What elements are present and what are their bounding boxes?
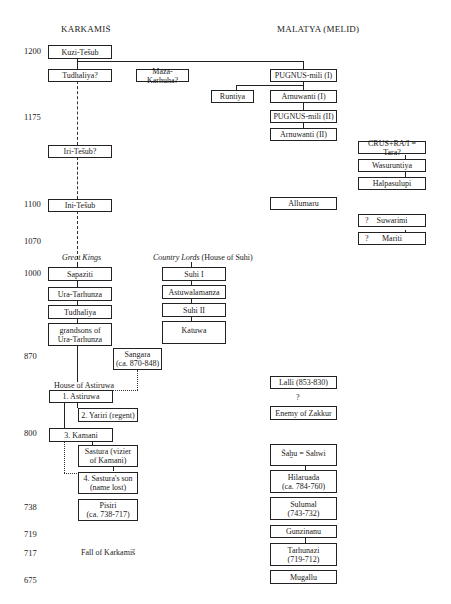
- ruler-suwarimi: ?Suwarimi: [358, 214, 426, 227]
- ruler-hilaruada: Hilaruada (ca. 784-760): [270, 470, 337, 493]
- ruler-allumaru: Allumaru: [270, 197, 337, 210]
- year-719: 719: [24, 529, 37, 539]
- ruler-suhi-1: Suhi I: [162, 267, 226, 281]
- ruler-pisiri: Pisiri (ca. 738-717): [78, 499, 138, 521]
- ruler-tudhaliya-q: Tudhaliya?: [48, 69, 112, 82]
- ruler-sastura-son: 4. Sastura's son (name lost): [78, 472, 138, 494]
- label-fall-of-karkamis: Fall of Karkamiš: [81, 548, 135, 557]
- dashed-connector: [77, 81, 78, 145]
- header-malatya: MALATYA (MELID): [277, 24, 359, 34]
- header-karkamis: KARKAMIŠ: [61, 24, 111, 34]
- ruler-wasuruntiya: Wasuruntiya: [358, 159, 426, 172]
- ruler-maza-karhuha: Maza-Karhuha?: [136, 69, 189, 82]
- unknown-succession-mark: ?: [296, 393, 300, 402]
- label-country-lords-suffix: (House of Suhi): [200, 253, 253, 262]
- year-738: 738: [24, 502, 37, 512]
- ruler-halpasulupi: Halpasulupi: [358, 177, 426, 190]
- ruler-sastura: Sastura (vizier of Kamani): [78, 445, 138, 467]
- ruler-tudhaliya: Tudhaliya: [48, 305, 112, 319]
- ruler-astiruwa: 1. Astiruwa: [49, 390, 113, 403]
- ruler-lalli: Lalli (853-830): [270, 376, 337, 389]
- label-country-lords-text: Country Lords: [153, 253, 200, 262]
- ruler-grandsons-ura-tarhunza: grandsons of Ura-Tarhunza: [48, 323, 112, 346]
- ruler-pugnus-mili-2: PUGNUS-mili (II): [270, 110, 337, 123]
- ruler-arnuwanti-2: Arnuwanti (II): [270, 128, 337, 141]
- ruler-suwarimi-label: Suwarimi: [376, 216, 407, 225]
- ruler-pugnus-mili-1: PUGNUS-mili (I): [270, 69, 337, 82]
- label-great-kings: Great Kings: [62, 253, 101, 262]
- year-1200: 1200: [24, 46, 41, 56]
- year-717: 717: [24, 548, 37, 558]
- dotted-connector: [137, 370, 138, 390]
- year-1100: 1100: [24, 199, 41, 209]
- year-675: 675: [24, 575, 37, 585]
- connector-line: [303, 61, 304, 69]
- connector-line: [236, 85, 304, 86]
- ruler-astuwalamanza: Astuwalamanza: [162, 285, 226, 299]
- dashed-connector: [77, 211, 78, 259]
- ruler-iri-teshub-q: Iri-Tešub?: [48, 145, 112, 158]
- ruler-crus-rai-tara: CRUS+RA/I = Tara?: [358, 141, 426, 154]
- ruler-ini-teshub: Ini-Tešub: [48, 199, 112, 212]
- ruler-tarhunazi: Tarhunazi (719-712): [270, 543, 337, 566]
- ruler-ura-tarhunza: Ura-Tarhunza: [48, 287, 112, 301]
- ruler-gunzinanu: Gunzinanu: [270, 525, 337, 538]
- uncertain-mark: ?: [365, 216, 369, 225]
- year-870: 870: [24, 351, 37, 361]
- connector-line: [77, 61, 304, 62]
- ruler-yariri: 2. Yariri (regent): [78, 408, 138, 422]
- ruler-enemy-of-zakkur: Enemy of Zakkur: [270, 406, 337, 420]
- connector-line: [303, 81, 304, 134]
- year-1070: 1070: [24, 236, 41, 246]
- ruler-arnuwanti-1: Arnuwanti (I): [270, 90, 337, 103]
- year-1000: 1000: [24, 268, 41, 278]
- uncertain-mark: ?: [365, 234, 369, 243]
- ruler-runtiya: Runtiya: [211, 90, 254, 103]
- ruler-sahu: Šaḫu = Sahwi: [270, 444, 337, 466]
- ruler-sulumal: Sulumal (743-732): [270, 497, 337, 520]
- ruler-sapaziti: Sapaziti: [48, 267, 112, 281]
- connector-line: [64, 400, 65, 430]
- dotted-connector: [64, 441, 65, 473]
- ruler-sangara: Sangara (ca. 870-848): [113, 348, 162, 370]
- ruler-suhi-2: Suhi II: [162, 303, 226, 317]
- ruler-kuzi-teshub: Kuzi-Tešub: [48, 45, 112, 59]
- ruler-kamani: 3. Kamani: [49, 428, 113, 442]
- year-800: 800: [24, 428, 37, 438]
- ruler-mariti-label: Mariti: [382, 234, 402, 243]
- year-1175: 1175: [24, 112, 41, 122]
- dotted-connector: [64, 473, 79, 474]
- ruler-mariti: ?Mariti: [358, 232, 426, 245]
- ruler-katuwa: Katuwa: [162, 321, 226, 344]
- label-house-of-astiruwa: House of Astiruwa: [54, 381, 114, 390]
- dashed-connector: [77, 157, 78, 199]
- ruler-mugallu: Mugallu: [270, 570, 337, 584]
- label-country-lords: Country Lords (House of Suhi): [153, 253, 253, 262]
